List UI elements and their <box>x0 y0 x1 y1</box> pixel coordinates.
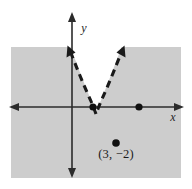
graph-figure: x y (3, −2) <box>0 0 192 189</box>
point-x-intercept-right <box>135 103 142 110</box>
point-vertex <box>112 139 120 147</box>
y-axis-label: y <box>77 22 91 34</box>
x-axis-label: x <box>166 111 180 123</box>
y-axis-top-arrow-icon <box>68 12 76 22</box>
point-x-intercept-left <box>89 103 96 110</box>
vertex-point-label: (3, −2) <box>80 148 152 162</box>
